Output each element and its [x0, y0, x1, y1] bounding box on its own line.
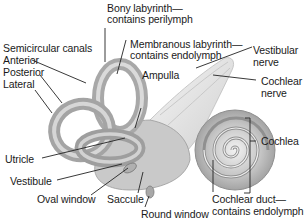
label-cochlear-duct: Cochlear duct—	[212, 193, 286, 205]
label-membranous-labyrinth-sub: contains endolymph	[130, 49, 222, 61]
label-saccule: Saccule	[107, 193, 144, 205]
label-cochlear-nerve: Cochlear	[261, 75, 302, 87]
inner-ear-illustration	[0, 0, 307, 221]
label-vestibule: Vestibule	[10, 175, 52, 187]
label-cochlea: Cochlea	[261, 135, 299, 147]
inner-ear-diagram: Bony labyrinth— contains perilymph Membr…	[0, 0, 307, 221]
label-ampulla: Ampulla	[142, 69, 179, 81]
label-bony-labyrinth-sub: contains perilymph	[107, 13, 193, 25]
label-cochlear-nerve-sub: nerve	[261, 87, 287, 99]
label-round-window: Round window	[141, 208, 209, 220]
label-oval-window: Oval window	[37, 193, 95, 205]
round-window	[146, 186, 154, 198]
label-cochlear-duct-sub: contains endolymph	[212, 205, 304, 217]
label-lateral: Lateral	[3, 78, 34, 90]
label-vestibular-nerve: Vestibular	[253, 44, 298, 56]
label-anterior: Anterior	[3, 54, 39, 66]
label-vestibular-nerve-sub: nerve	[253, 56, 279, 68]
label-utricle: Utricle	[5, 153, 34, 165]
label-posterior: Posterior	[3, 66, 44, 78]
label-semicircular-canals: Semicircular canals	[3, 42, 92, 54]
